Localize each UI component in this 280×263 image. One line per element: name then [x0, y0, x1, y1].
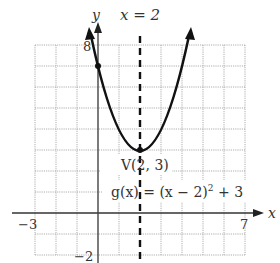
tick-label-neg3: −3 — [18, 217, 37, 232]
tick-label-8: 8 — [83, 39, 91, 54]
x-axis-label: x — [268, 205, 276, 221]
parabola-chart: y x = 2 8 V(2, 3) g(x) = (x − 2)2 + 3 x … — [0, 0, 280, 263]
arrow-right-icon — [185, 27, 195, 40]
function-label: g(x) = (x − 2)2 + 3 — [111, 183, 243, 200]
point-y-intercept — [95, 63, 101, 69]
y-axis-label: y — [91, 7, 101, 23]
vertex-label: V(2, 3) — [120, 157, 169, 173]
tick-label-7: 7 — [240, 217, 248, 232]
tick-label-neg2: −2 — [74, 249, 93, 263]
symmetry-label: x = 2 — [120, 6, 160, 24]
point-vertex — [137, 147, 143, 153]
x-axis — [12, 209, 264, 217]
